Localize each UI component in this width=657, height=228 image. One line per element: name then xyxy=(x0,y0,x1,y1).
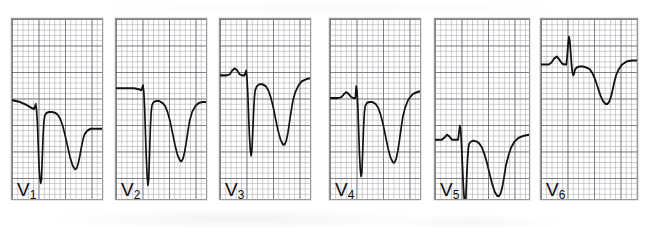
ecg-lead-label-subscript-v1: 1 xyxy=(30,188,37,200)
ecg-lead-label-text-v3: V xyxy=(225,179,238,200)
ecg-trace-v4 xyxy=(330,19,420,199)
ecg-lead-label-text-v5: V xyxy=(440,179,453,200)
ecg-waveform-path-v1 xyxy=(12,100,102,183)
ecg-figure: V1 V2 V3 V4 xyxy=(0,0,657,228)
ecg-lead-label-subscript-v5: 5 xyxy=(453,188,460,200)
ecg-lead-label-v4: V4 xyxy=(335,180,354,199)
ecg-lead-label-v1: V1 xyxy=(17,180,36,199)
ecg-trace-v3 xyxy=(220,19,310,199)
ecg-lead-label-v2: V2 xyxy=(121,180,140,199)
ecg-lead-label-text-v2: V xyxy=(121,179,134,200)
ecg-waveform-path-v6 xyxy=(541,37,637,104)
ecg-trace-v6 xyxy=(541,19,637,199)
ecg-trace-v2 xyxy=(116,19,206,199)
ecg-waveform-path-v2 xyxy=(116,85,206,185)
ecg-lead-label-text-v1: V xyxy=(17,179,30,200)
ecg-lead-panel-v3: V3 xyxy=(219,18,311,200)
ecg-lead-label-text-v4: V xyxy=(335,179,348,200)
ecg-lead-panel-v4: V4 xyxy=(329,18,421,200)
ecg-lead-label-subscript-v3: 3 xyxy=(238,188,245,200)
ecg-lead-panel-v1: V1 xyxy=(11,18,103,200)
ecg-trace-v5 xyxy=(435,19,529,199)
ecg-trace-v1 xyxy=(12,19,102,199)
ecg-lead-label-v6: V6 xyxy=(546,180,565,199)
ecg-lead-label-v3: V3 xyxy=(225,180,244,199)
ecg-lead-panel-v5: V5 xyxy=(434,18,530,200)
ecg-lead-label-text-v6: V xyxy=(546,179,559,200)
ecg-lead-label-v5: V5 xyxy=(440,180,459,199)
ecg-lead-label-subscript-v6: 6 xyxy=(559,188,566,200)
ecg-waveform-path-v3 xyxy=(220,68,310,155)
ecg-lead-panel-v6: V6 xyxy=(540,18,638,200)
ecg-lead-panel-v2: V2 xyxy=(115,18,207,200)
ecg-waveform-path-v4 xyxy=(330,86,420,176)
ecg-lead-label-subscript-v4: 4 xyxy=(348,188,355,200)
ecg-lead-label-subscript-v2: 2 xyxy=(134,188,141,200)
